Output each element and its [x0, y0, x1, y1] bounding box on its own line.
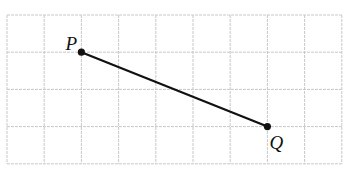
point-p-label: P	[64, 33, 77, 54]
point-q-dot	[264, 123, 271, 130]
point-p-dot	[78, 49, 85, 56]
grid-diagram: P Q	[0, 0, 352, 178]
point-q-label: Q	[269, 132, 283, 153]
